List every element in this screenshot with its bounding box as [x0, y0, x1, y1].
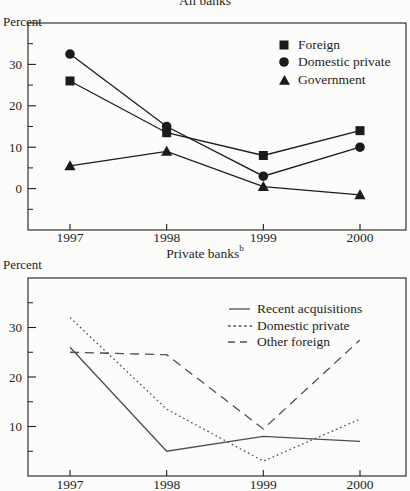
- data-point-marker-circle: [355, 142, 365, 152]
- series-line-other-foreign: [70, 340, 360, 429]
- x-axis-label: 1999: [250, 477, 277, 491]
- chart-title-all-banks: All banks: [0, 0, 410, 8]
- solid-line-icon: [228, 307, 252, 311]
- y-axis-tick-label: 30: [9, 320, 22, 335]
- y-axis-unit-label-top: Percent: [3, 15, 42, 28]
- series-line-government: [70, 151, 360, 194]
- x-axis-label: 1999: [250, 230, 277, 245]
- legend-label-domestic-private-bottom: Domestic private: [257, 318, 350, 334]
- legend-item-domestic-private-bottom: Domestic private: [228, 318, 362, 335]
- data-point-marker-square: [66, 76, 75, 85]
- data-point-marker-triangle: [258, 181, 269, 191]
- data-point-marker-square: [356, 126, 365, 135]
- legend-item-foreign: Foreign: [278, 36, 391, 54]
- data-point-marker-circle: [259, 171, 269, 181]
- x-axis-label: 1997: [57, 230, 84, 245]
- chart-title-private-banks-text: Private banks: [166, 246, 239, 261]
- chart-title-private-banks: Private banksb: [0, 245, 410, 261]
- legend-all-banks: Foreign Domestic private Government: [278, 36, 391, 89]
- data-point-marker-triangle: [161, 146, 172, 156]
- data-point-marker-circle: [162, 122, 172, 132]
- legend-label-domestic-private: Domestic private: [298, 54, 391, 70]
- triangle-marker-icon: [278, 74, 292, 86]
- x-axis-label: 2000: [347, 477, 374, 491]
- legend-item-recent-acquisitions: Recent acquisitions: [228, 301, 362, 318]
- y-axis-unit-label-bottom: Percent: [3, 258, 42, 271]
- x-axis-label: 1997: [57, 477, 84, 491]
- circle-marker-icon: [278, 56, 292, 68]
- y-axis-tick-label: 10: [9, 419, 22, 434]
- dotted-line-icon: [228, 324, 252, 328]
- data-point-marker-circle: [65, 49, 75, 59]
- dashed-line-icon: [228, 340, 252, 344]
- chart-title-all-banks-text: All banks: [179, 0, 231, 8]
- y-axis-tick-label: 20: [9, 98, 22, 113]
- square-marker-icon: [278, 39, 292, 51]
- y-axis-tick-label: 10: [9, 140, 22, 155]
- x-axis-label: 1998: [153, 477, 180, 491]
- legend-label-recent-acquisitions: Recent acquisitions: [257, 301, 362, 317]
- data-point-marker-square: [259, 151, 268, 160]
- y-axis-tick-label: 0: [16, 181, 23, 196]
- legend-private-banks: Recent acquisitions Domestic private Oth…: [228, 301, 362, 351]
- page-root: 0102030199719981999200010203019971998199…: [0, 0, 410, 491]
- legend-item-other-foreign: Other foreign: [228, 334, 362, 351]
- x-axis-label: 2000: [347, 230, 374, 245]
- series-line-foreign: [70, 81, 360, 156]
- title-superscript-b: b: [239, 243, 244, 253]
- legend-item-domestic-private: Domestic private: [278, 54, 391, 72]
- legend-label-foreign: Foreign: [298, 37, 340, 53]
- legend-label-government: Government: [298, 72, 365, 88]
- legend-label-other-foreign: Other foreign: [257, 334, 330, 350]
- x-axis-label: 1998: [153, 230, 180, 245]
- series-line-recent-acquisitions: [70, 347, 360, 451]
- y-axis-tick-label: 30: [9, 57, 22, 72]
- y-axis-tick-label: 20: [9, 370, 22, 385]
- legend-item-government: Government: [278, 71, 391, 89]
